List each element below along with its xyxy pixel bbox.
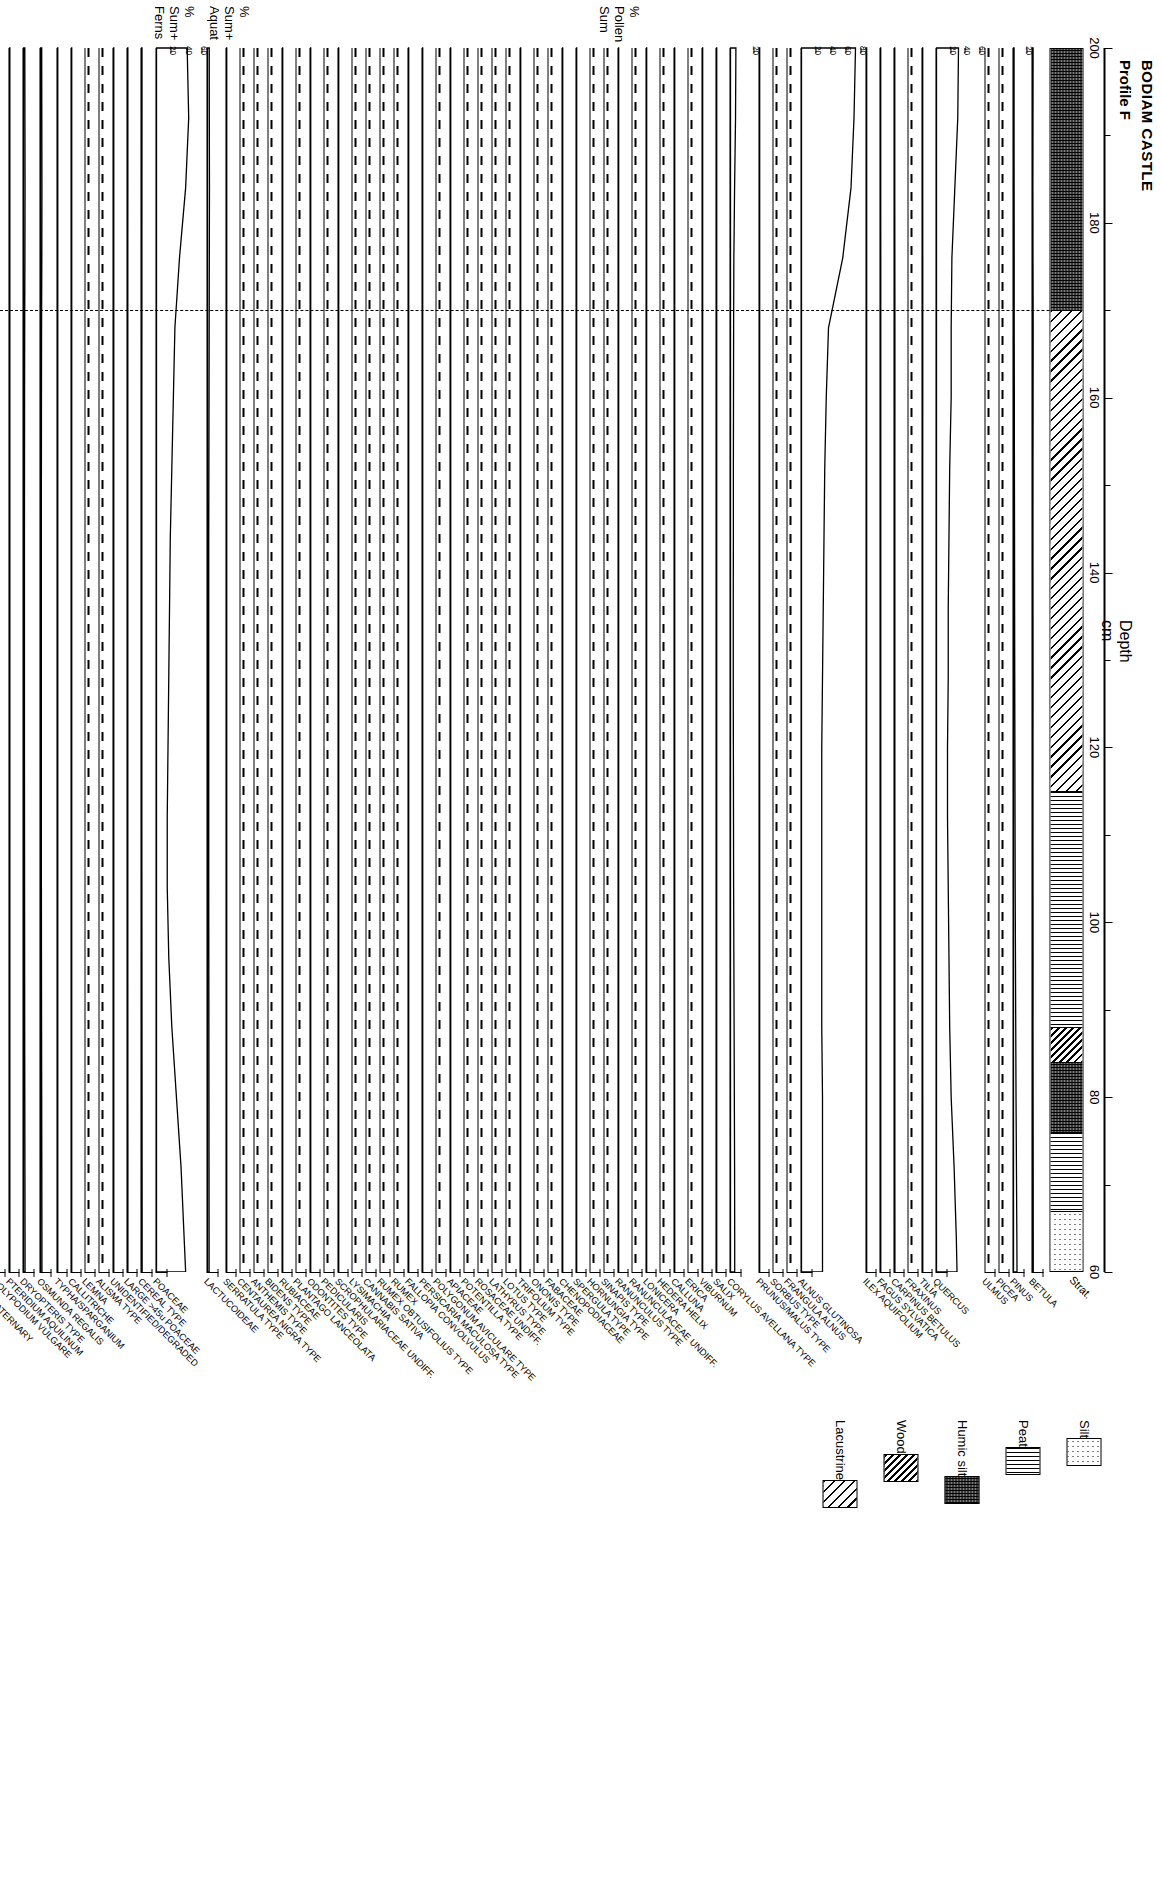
depth-tick xyxy=(1104,1272,1112,1273)
taxon-axis-cap xyxy=(66,1269,67,1277)
taxon-panel: ULMUS xyxy=(984,0,995,1272)
taxon-zero-dashes xyxy=(789,48,791,1272)
taxon-axis-cap xyxy=(151,1269,152,1277)
taxon-scale-label: 20 xyxy=(750,46,759,55)
taxon-panel: LOTUS TYPE xyxy=(505,0,516,1272)
lithology-legend: SiltPeatHumic siltWoodLacustrine xyxy=(796,1420,1101,1517)
taxon-curve xyxy=(701,0,712,1272)
taxon-panel: FAGUS SYLVATICA xyxy=(879,0,890,1272)
taxon-panel: ANTHEMIS TYPE xyxy=(253,0,264,1272)
taxon-panel: LATHYRUS TYPE xyxy=(491,0,502,1272)
taxon-axis-cap xyxy=(903,1269,904,1277)
figure-subtitle: Profile F xyxy=(1116,60,1133,120)
taxon-curve xyxy=(893,0,904,1272)
taxon-axis-cap xyxy=(585,1269,586,1277)
taxon-panel: QUERCUS204060 xyxy=(935,0,981,1272)
depth-tick-label: 180 xyxy=(1086,212,1101,234)
taxon-curve xyxy=(758,0,769,1272)
taxon-panel: POLYPODIUM VULGARE xyxy=(0,0,5,1272)
taxon-curve xyxy=(575,0,586,1272)
depth-tick-label: 200 xyxy=(1086,37,1101,59)
taxon-curve xyxy=(800,0,862,1272)
taxon-scale-label: 20 xyxy=(1023,46,1032,55)
taxon-scale-tick xyxy=(186,48,187,53)
depth-tick xyxy=(1104,398,1112,399)
taxon-baseline xyxy=(631,48,632,1272)
taxon-axis-cap xyxy=(1008,1269,1009,1277)
taxon-zero-dashes xyxy=(256,48,258,1272)
taxon-axis-cap xyxy=(599,1269,600,1277)
taxon-curve xyxy=(56,0,67,1272)
taxon-axis-cap xyxy=(1042,1269,1043,1277)
taxon-axis-cap xyxy=(782,1269,783,1277)
taxon-baseline xyxy=(687,48,688,1272)
taxon-zero-dashes xyxy=(87,48,89,1272)
taxon-scale-label: 40 xyxy=(961,46,970,55)
depth-minor-tick xyxy=(1104,1185,1110,1186)
taxon-panel: HEDERA HELIX xyxy=(659,0,670,1272)
depth-tick xyxy=(1104,922,1112,923)
taxon-curve xyxy=(140,0,152,1272)
depth-minor-tick xyxy=(1104,135,1110,136)
taxon-axis-cap xyxy=(403,1269,404,1277)
taxon-zero-dashes xyxy=(326,48,328,1272)
taxon-curve xyxy=(673,0,684,1272)
taxon-baseline xyxy=(365,48,366,1272)
taxon-axis-cap xyxy=(217,1269,218,1277)
taxon-panel: LYSIMACHIA xyxy=(351,0,362,1272)
taxon-axis-cap xyxy=(683,1269,684,1277)
taxon-curve xyxy=(112,0,123,1272)
taxon-baseline xyxy=(505,48,506,1272)
taxon-axis-cap xyxy=(946,1269,947,1277)
wood-swatch xyxy=(883,1454,918,1482)
taxon-scale-tick xyxy=(201,48,202,53)
taxon-baseline xyxy=(435,48,436,1272)
taxon-baseline xyxy=(98,48,99,1272)
strat-segment-wood xyxy=(1050,1028,1082,1063)
taxon-axis-cap xyxy=(473,1269,474,1277)
peat-swatch xyxy=(1005,1447,1040,1475)
taxon-axis-cap xyxy=(669,1269,670,1277)
legend-item: Wood xyxy=(883,1420,918,1517)
taxon-panel: SERRATULA TYPE xyxy=(225,0,236,1272)
taxon-scale-tick xyxy=(964,48,965,53)
taxon-baseline xyxy=(267,48,268,1272)
taxon-baseline xyxy=(491,48,492,1272)
taxon-scale-label: 20 xyxy=(812,46,821,55)
taxon-panel: PRUNUS/MALUS TYPE xyxy=(758,0,769,1272)
taxon-panel: CALLUNA xyxy=(673,0,684,1272)
taxon-axis-cap xyxy=(375,1269,376,1277)
taxon-zero-dashes xyxy=(662,48,664,1272)
taxon-curve xyxy=(126,0,137,1272)
taxon-panel: FRANGULA ALNUS xyxy=(786,0,797,1272)
taxon-scale-label: 20 xyxy=(167,46,176,55)
taxon-axis-cap xyxy=(811,1269,812,1277)
taxon-axis-cap xyxy=(305,1269,306,1277)
depth-tick xyxy=(1104,747,1112,748)
taxon-panel: CARPINUS BETULUS xyxy=(893,0,904,1272)
taxon-panel: OSMUNDA REGALIS xyxy=(39,0,53,1272)
taxon-panel: TYPHA/SPARGANIUM xyxy=(56,0,67,1272)
taxon-baseline xyxy=(84,48,85,1272)
taxon-zero-dashes xyxy=(775,48,777,1272)
taxon-axis-cap xyxy=(613,1269,614,1277)
taxon-zero-dashes xyxy=(550,48,552,1272)
legend-item: Silt xyxy=(1066,1420,1101,1517)
taxon-baseline xyxy=(998,48,999,1272)
taxon-panel: RUMEX xyxy=(393,0,404,1272)
taxon-curve xyxy=(206,0,222,1272)
taxon-panel: ODONTITES TYPE xyxy=(309,0,320,1272)
taxon-scale-tick xyxy=(845,48,846,53)
taxon-panel: RANUNCULACEAE UNDIFF. xyxy=(631,0,642,1272)
taxon-axis-cap xyxy=(136,1269,137,1277)
depth-tick xyxy=(1104,573,1112,574)
taxon-curve xyxy=(519,0,530,1272)
humic-silt-swatch xyxy=(944,1476,979,1504)
taxon-panel: ERICA xyxy=(687,0,698,1272)
taxon-curve xyxy=(1031,0,1043,1272)
taxon-curve xyxy=(407,0,418,1272)
taxon-axis-cap xyxy=(291,1269,292,1277)
depth-minor-tick xyxy=(1104,1010,1110,1011)
taxon-axis-cap xyxy=(249,1269,250,1277)
taxon-curve xyxy=(617,0,628,1272)
